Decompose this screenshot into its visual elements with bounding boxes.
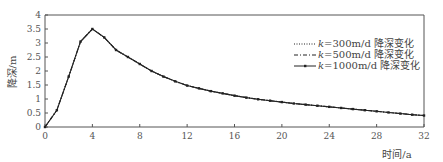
y-tick-label: 1.5: [27, 80, 42, 90]
data-point: [210, 90, 212, 92]
line-chart: 04812162024283200.511.522.533.54 降深/m 时间…: [0, 0, 443, 162]
x-tick-label: 12: [181, 131, 192, 141]
data-point: [198, 87, 200, 89]
x-tick-label: 0: [42, 131, 48, 141]
data-point: [257, 98, 259, 100]
data-point: [79, 40, 81, 42]
data-point: [103, 36, 105, 38]
data-point: [316, 105, 318, 107]
data-point: [139, 63, 141, 65]
data-point: [186, 84, 188, 86]
y-tick-label: 4: [35, 10, 41, 20]
x-tick-label: 20: [276, 131, 288, 141]
y-tick-label: 0.5: [27, 108, 42, 118]
data-point: [174, 80, 176, 82]
y-tick-label: 0: [35, 122, 41, 132]
y-axis-label: 降深/m: [6, 55, 18, 88]
data-point: [364, 109, 366, 111]
data-point: [399, 112, 401, 114]
data-point: [150, 70, 152, 72]
y-tick-label: 1: [35, 94, 41, 104]
data-point: [387, 111, 389, 113]
data-point: [56, 109, 58, 111]
x-axis-label: 时间/a: [382, 148, 411, 160]
y-tick-label: 3: [35, 38, 41, 48]
y-tick-label: 2: [35, 66, 41, 76]
data-point: [293, 102, 295, 104]
x-tick-label: 24: [324, 131, 336, 141]
data-point: [328, 106, 330, 108]
data-point: [221, 92, 223, 94]
data-point: [127, 56, 129, 58]
data-point: [91, 28, 93, 30]
data-point: [375, 110, 377, 112]
data-point: [269, 99, 271, 101]
x-tick-label: 8: [137, 131, 143, 141]
data-point: [233, 94, 235, 96]
axes: 04812162024283200.511.522.533.54: [27, 10, 430, 141]
data-point: [245, 96, 247, 98]
x-tick-label: 32: [418, 131, 429, 141]
data-point: [67, 75, 69, 77]
y-tick-label: 3.5: [27, 24, 42, 34]
x-tick-label: 16: [229, 131, 241, 141]
data-point: [352, 108, 354, 110]
legend-item: k=500m/d 降深变化: [318, 48, 414, 60]
data-point: [162, 75, 164, 77]
data-point: [340, 107, 342, 109]
x-tick-label: 28: [371, 131, 383, 141]
data-point: [115, 49, 117, 51]
legend: k=300m/d 降深变化k=500m/d 降深变化k=1000m/d 降深变化: [294, 37, 420, 71]
legend-item: k=300m/d 降深变化: [318, 37, 414, 49]
data-point: [423, 114, 425, 116]
data-point: [304, 103, 306, 105]
data-point: [281, 101, 283, 103]
data-point: [44, 126, 46, 128]
x-tick-label: 4: [90, 131, 96, 141]
legend-item: k=1000m/d 降深变化: [318, 59, 420, 71]
y-tick-label: 2.5: [27, 52, 42, 62]
data-point: [411, 113, 413, 115]
